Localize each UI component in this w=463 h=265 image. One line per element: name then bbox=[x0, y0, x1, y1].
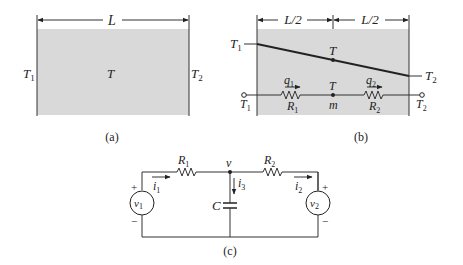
thermal-circuit-figure: L T1 T T2 (a) L/2 L/2 T1 T2 T q1 q2 T bbox=[0, 0, 463, 265]
terminal-t2: T2 bbox=[416, 97, 427, 113]
i1-label: i1 bbox=[153, 179, 160, 195]
panel-c: R1 R2 v i1 i2 i3 C v1 v2 + − + − (c) bbox=[130, 153, 330, 258]
panel-b: L/2 L/2 T1 T2 T q1 q2 T m R1 R2 T1 T2 (b… bbox=[230, 12, 437, 144]
profile-t1: T1 bbox=[230, 36, 242, 53]
caption-c: (c) bbox=[223, 244, 236, 258]
v1-minus: − bbox=[131, 215, 137, 227]
profile-t2: T2 bbox=[425, 68, 437, 85]
v2-plus: + bbox=[322, 181, 328, 193]
i3-label: i3 bbox=[238, 176, 245, 192]
node-m bbox=[331, 93, 335, 97]
i2-label: i2 bbox=[295, 179, 302, 195]
terminal-t1: T1 bbox=[240, 97, 251, 113]
node-m-label: m bbox=[329, 98, 338, 112]
half-length-left: L/2 bbox=[283, 12, 302, 27]
c-r1-label: R1 bbox=[177, 153, 189, 169]
wire-r1 bbox=[142, 168, 230, 176]
profile-midpoint bbox=[331, 58, 335, 62]
v1-plus: + bbox=[131, 181, 137, 193]
panel-a: L T1 T T2 (a) bbox=[23, 13, 203, 144]
v2-minus: − bbox=[322, 215, 328, 227]
t2-label: T2 bbox=[191, 66, 203, 83]
c-r2-label: R2 bbox=[263, 153, 275, 169]
center-temp-label: T bbox=[107, 66, 115, 81]
half-length-right: L/2 bbox=[360, 12, 379, 27]
t1-label: T1 bbox=[23, 66, 35, 83]
profile-mid-temp: T bbox=[329, 43, 337, 58]
node-v bbox=[228, 170, 232, 174]
length-label: L bbox=[107, 13, 116, 28]
caption-a: (a) bbox=[105, 130, 118, 144]
node-voltage-label: v bbox=[226, 156, 232, 170]
capacitor-label: C bbox=[212, 198, 221, 213]
caption-b: (b) bbox=[354, 130, 368, 144]
